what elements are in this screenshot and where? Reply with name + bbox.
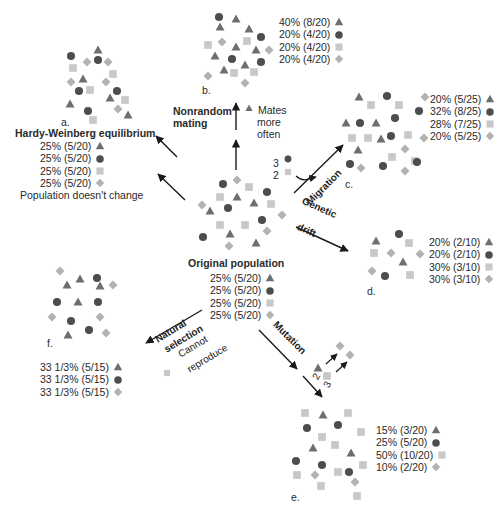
stat-row: 25% (5/20) (40, 165, 105, 177)
triangle-icon (63, 281, 72, 289)
stat-value: 25% (5/20) (40, 152, 91, 164)
square-icon (395, 101, 403, 109)
triangle-icon (245, 25, 254, 33)
triangle-icon (226, 230, 235, 238)
triangle-icon (232, 15, 241, 23)
stat-value: 28% (7/25) (430, 118, 481, 130)
diamond-icon (198, 201, 207, 210)
diamond-icon (336, 342, 345, 351)
triangle-icon (66, 100, 75, 108)
circle-icon (199, 233, 207, 241)
triangle-icon (377, 135, 386, 143)
diamond-icon (335, 55, 343, 63)
stat-value: 25% (5/20) (376, 436, 427, 448)
original-population-stats: 25% (5/20)25% (5/20)25% (5/20)25% (5/20) (210, 272, 275, 322)
square-icon (243, 37, 251, 45)
stat-row: 30% (3/10) (429, 261, 494, 273)
triangle-icon (94, 46, 103, 54)
circle-icon (257, 33, 265, 41)
panel-d-stats: 20% (2/10)20% (2/10)30% (3/10)30% (3/10) (429, 236, 494, 286)
circle-icon (356, 119, 364, 127)
triangle-icon (106, 94, 115, 102)
triangle-icon (206, 207, 215, 215)
square-icon (241, 221, 249, 229)
stat-row: 33 1/3% (5/15) (40, 361, 123, 373)
triangle-icon (252, 239, 261, 247)
triangle-icon (399, 258, 408, 266)
stat-value: 20% (5/25) (430, 93, 481, 105)
stat-value: 20% (5/25) (430, 130, 481, 142)
square-icon (353, 492, 361, 500)
square-icon (216, 193, 224, 201)
panel-a-title: Hardy-Weinberg equilibrium (15, 127, 155, 139)
triangle-icon (232, 43, 241, 51)
square-icon (293, 471, 301, 479)
stat-value: 15% (3/20) (376, 424, 427, 436)
square-icon (245, 183, 253, 191)
mates-note-1: Mates (258, 104, 287, 116)
triangle-icon (114, 363, 122, 371)
stat-value: 32% (8/25) (430, 105, 481, 117)
square-icon (486, 263, 493, 270)
stat-value: 33 1/3% (5/15) (40, 373, 109, 385)
stat-row: 20% (4/20) (279, 41, 344, 53)
square-icon (86, 86, 94, 94)
circle-icon (53, 298, 61, 306)
nonrandom-mating-label-1: Nonrandom (173, 105, 232, 117)
diamond-icon (401, 145, 410, 154)
square-icon (121, 96, 129, 104)
circle-icon (113, 87, 121, 95)
arrow-to-a-upper (156, 136, 177, 157)
circle-icon (228, 55, 236, 63)
stat-row: 25% (5/20) (40, 177, 105, 189)
diamond-icon (387, 249, 396, 258)
circle-icon (67, 52, 75, 60)
circle-icon (391, 114, 399, 122)
triangle-icon (241, 61, 250, 69)
diamond-icon (351, 478, 360, 487)
square-icon (406, 271, 414, 279)
stat-value: 33 1/3% (5/15) (40, 361, 109, 373)
original-population-title: Original population (188, 257, 284, 269)
diamond-icon (357, 164, 366, 173)
circle-icon (224, 204, 232, 212)
square-icon (164, 370, 170, 376)
stat-row: 20% (5/25) (430, 130, 495, 142)
diamond-icon (109, 281, 118, 290)
square-icon (336, 43, 343, 50)
stat-row: 20% (2/10) (429, 248, 494, 260)
triangle-icon (233, 193, 242, 201)
circle-icon (85, 326, 93, 334)
diamond-icon (67, 78, 76, 87)
stat-value: 25% (5/20) (210, 297, 261, 309)
diamond-icon (56, 267, 65, 276)
circle-icon (97, 155, 105, 163)
mutation-arrow-square (336, 362, 347, 372)
stat-value: 20% (2/10) (429, 248, 480, 260)
circle-icon (258, 216, 266, 224)
circle-icon (318, 461, 326, 469)
circle-icon (379, 162, 387, 170)
stat-value: 10% (2/20) (376, 461, 427, 473)
triangle-icon (266, 274, 274, 282)
stat-value: 25% (5/20) (40, 140, 91, 152)
square-icon (230, 69, 238, 77)
square-icon (357, 428, 365, 436)
stat-row: 10% (2/20) (376, 461, 447, 473)
diamond-icon (83, 58, 92, 67)
stat-row: 20% (4/20) (279, 53, 344, 65)
panel-e-stats: 15% (3/20)25% (5/20)50% (10/20)10% (2/20… (376, 424, 447, 474)
triangle-icon (314, 364, 323, 372)
migrant-count-circle: 3 (273, 157, 279, 169)
stat-value: 20% (4/20) (279, 28, 330, 40)
triangle-icon (432, 426, 440, 434)
stat-row: 20% (5/25) (430, 93, 495, 105)
circle-icon (257, 58, 265, 66)
triangle-icon (211, 52, 220, 60)
circle-icon (413, 158, 421, 166)
arrow-to-hardy-weinberg (158, 174, 185, 200)
square-icon (367, 101, 375, 109)
square-icon (364, 134, 372, 142)
panel-b-stats: 40% (8/20)20% (4/20)20% (4/20)20% (4/20) (279, 16, 344, 66)
mates-note-3: often (257, 128, 280, 140)
